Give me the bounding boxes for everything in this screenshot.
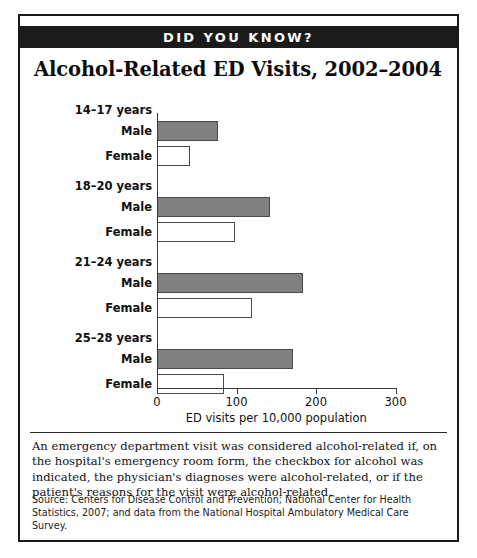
x-axis-title: ED visits per 10,000 population <box>157 411 396 425</box>
did-you-know-banner: DID YOU KNOW? <box>20 26 457 48</box>
banner-label: DID YOU KNOW? <box>163 30 314 45</box>
did-you-know-panel: DID YOU KNOW? Alcohol-Related ED Visits,… <box>0 0 477 558</box>
footnote-definition: An emergency department visit was consid… <box>32 439 446 501</box>
category-label-2: 18–20 years <box>75 180 152 193</box>
x-tick-label-300: 300 <box>385 395 407 409</box>
series-label-male-3: Male <box>121 277 152 290</box>
series-label-male-2: Male <box>121 201 152 214</box>
series-label-female-3: Female <box>105 302 152 315</box>
bar-male-3 <box>157 273 303 293</box>
bar-female-1 <box>157 146 190 166</box>
panel-border-left <box>18 14 20 542</box>
bar-male-2 <box>157 197 270 217</box>
x-tick-300 <box>396 388 397 394</box>
panel-border-right <box>457 14 459 542</box>
bar-female-2 <box>157 222 235 242</box>
panel-border-bottom <box>18 540 459 542</box>
series-label-female-2: Female <box>105 226 152 239</box>
panel-border-top <box>18 14 459 16</box>
x-tick-label-200: 200 <box>305 395 327 409</box>
x-tick-label-0: 0 <box>153 395 160 409</box>
series-label-male-4: Male <box>121 353 152 366</box>
x-tick-label-100: 100 <box>226 395 248 409</box>
series-label-male-1: Male <box>121 125 152 138</box>
category-label-4: 25–28 years <box>75 332 152 345</box>
series-label-female-1: Female <box>105 150 152 163</box>
bar-male-4 <box>157 349 293 369</box>
category-label-3: 21–24 years <box>75 256 152 269</box>
bar-female-4 <box>157 374 224 394</box>
y-axis-line <box>157 113 158 389</box>
footnote-source: Source: Centers for Disease Control and … <box>32 493 446 532</box>
page-title: Alcohol-Related ED Visits, 2002–2004 <box>34 58 444 81</box>
category-label-1: 14–17 years <box>75 104 152 117</box>
series-label-female-4: Female <box>105 378 152 391</box>
x-axis-line <box>157 388 396 389</box>
footnote-divider <box>30 432 447 433</box>
bar-female-3 <box>157 298 252 318</box>
bar-male-1 <box>157 121 218 141</box>
